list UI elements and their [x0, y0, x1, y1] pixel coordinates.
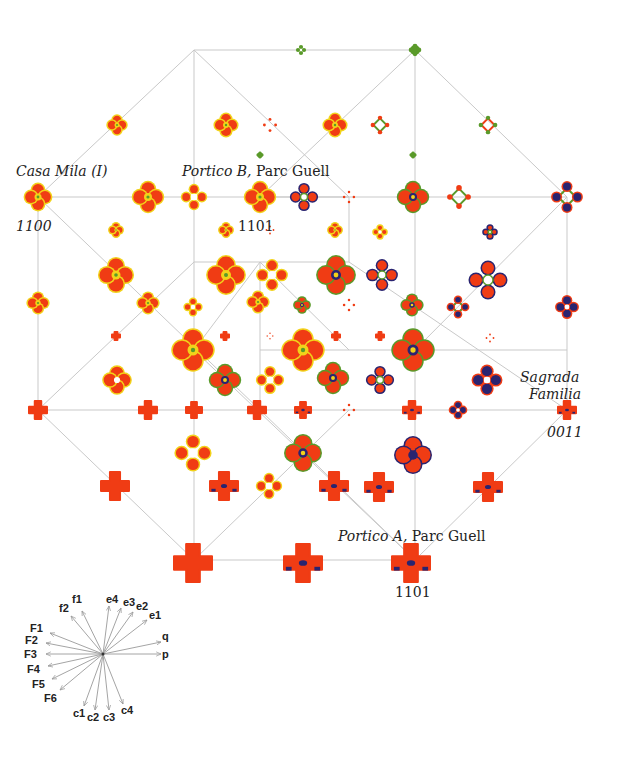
column-shape-node [474, 473, 502, 501]
code-portico-a: 1101 [395, 584, 431, 600]
vector-origin [102, 653, 105, 656]
vector-arrow-c2 [95, 654, 103, 710]
vector-label-q: q [162, 630, 169, 642]
column-shape-node [372, 224, 388, 240]
vector-label-f1: F1 [30, 622, 43, 634]
vector-label-c2: c2 [87, 711, 99, 723]
column-shape-node [366, 259, 398, 291]
code-casa-mila: 1100 [16, 218, 52, 234]
vector-label-c3: c3 [103, 711, 115, 723]
label-casa-mila: Casa Mila (I) [16, 163, 108, 179]
vector-arrow-f1 [50, 633, 103, 654]
column-shape-node [343, 299, 355, 311]
label-portico-b-place: Parc Guell [252, 163, 330, 179]
column-shape-node [246, 290, 269, 313]
vector-arrow-f2 [46, 643, 103, 654]
column-shape-node [317, 362, 349, 394]
column-shape-node [555, 295, 579, 319]
vector-label-c1: c1 [73, 707, 85, 719]
label-sagrada-familia-2: Familia [529, 386, 581, 402]
column-shape-node [183, 297, 202, 316]
vector-arrow-q [103, 642, 161, 654]
code-portico-b: 1101 [238, 218, 274, 234]
vector-label-f3: F3 [24, 648, 37, 660]
vector-label-e1: e1 [149, 609, 161, 621]
column-shape-node [397, 181, 429, 213]
column-shape-node [102, 365, 132, 395]
column-shape-node [366, 366, 394, 394]
column-shape-node [174, 434, 211, 471]
column-shape-node [365, 473, 393, 501]
vector-label-e4: e4 [106, 593, 118, 605]
column-shape-node [256, 473, 282, 499]
vector-label-f1: f1 [72, 593, 82, 605]
column-shape-node [295, 402, 311, 418]
column-shape-node [290, 183, 318, 211]
label-portico-a-name: Portico A, [338, 528, 407, 544]
column-shape-node [391, 328, 434, 371]
column-shape-node [256, 259, 288, 291]
vector-label-f2: F2 [25, 634, 38, 646]
vector-label-c4: c4 [121, 704, 133, 716]
vector-label-f2: f2 [59, 602, 69, 614]
column-shape-node [221, 332, 229, 340]
column-shape-node [296, 45, 306, 55]
column-shape-node [479, 116, 498, 135]
column-shape-node [400, 293, 423, 316]
column-shape-node [472, 365, 503, 396]
column-shape-node [403, 401, 421, 419]
column-shape-node [139, 401, 157, 419]
column-shape-node [98, 257, 134, 293]
label-portico-a: Portico A, Parc Guell [338, 528, 485, 544]
label-portico-a-place: Parc Guell [407, 528, 485, 544]
column-shape-node [449, 401, 468, 420]
column-shape-node [327, 222, 343, 238]
column-shape-node [482, 224, 498, 240]
column-shape-node [174, 544, 212, 582]
column-shape-node [284, 544, 322, 582]
column-shape-node [26, 291, 49, 314]
vector-label-p: p [162, 648, 169, 660]
column-shape-node [181, 184, 207, 210]
vector-label-f4: F4 [27, 663, 40, 675]
column-shape-node [469, 261, 508, 300]
column-shape-node [371, 116, 390, 135]
column-shape-node [171, 328, 214, 371]
label-portico-b: Portico B, Parc Guell [182, 163, 330, 179]
column-shape-node [332, 332, 340, 340]
column-shape-node [218, 222, 234, 238]
vector-label-e2: e2 [136, 600, 148, 612]
column-shape-nodes [24, 44, 583, 582]
vector-label-f6: F6 [44, 692, 57, 704]
column-shape-node [486, 334, 495, 343]
column-shape-node [266, 332, 273, 339]
column-shape-node [210, 472, 238, 500]
column-shape-node [106, 114, 127, 135]
column-shape-node [320, 472, 348, 500]
code-sagrada-familia: 0011 [547, 424, 583, 440]
vector-label-e3: e3 [123, 596, 135, 608]
edge-line [415, 50, 567, 197]
column-shape-node [186, 402, 202, 418]
column-shape-node [281, 328, 324, 371]
column-shape-node [376, 332, 384, 340]
label-portico-b-name: Portico B, [182, 163, 252, 179]
column-shape-node [108, 222, 124, 238]
column-shape-node [394, 436, 432, 474]
label-sagrada-familia-1: Sagrada [520, 369, 579, 385]
column-shape-node [132, 181, 164, 213]
vector-legend [46, 606, 161, 710]
vector-arrow-f4 [48, 654, 103, 666]
column-shape-node [316, 255, 356, 295]
column-shape-node [256, 151, 263, 158]
column-shape-node [213, 112, 238, 137]
column-shape-node [263, 118, 277, 132]
column-shape-node [101, 472, 129, 500]
column-shape-node [409, 151, 416, 158]
vector-label-f5: F5 [32, 678, 45, 690]
column-shape-node [392, 544, 430, 582]
column-shape-node [293, 296, 311, 314]
